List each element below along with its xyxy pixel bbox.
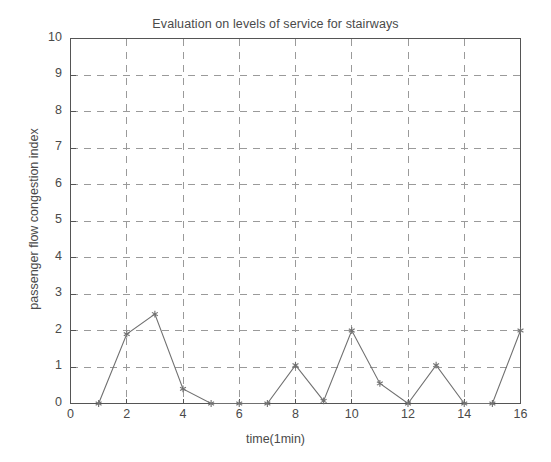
y-tick-label: 7 <box>18 139 62 153</box>
gridlines <box>71 39 521 404</box>
y-tick-label: 9 <box>18 66 62 80</box>
x-tick-label: 16 <box>501 407 541 421</box>
y-tick-label: 2 <box>18 322 62 336</box>
chart-figure: Evaluation on levels of service for stai… <box>0 0 551 462</box>
x-tick-label: 8 <box>276 407 316 421</box>
x-tick-label: 14 <box>444 407 484 421</box>
plot-area <box>0 0 551 462</box>
x-tick-label: 6 <box>219 407 259 421</box>
y-tick-label: 3 <box>18 285 62 299</box>
x-tick-label: 12 <box>388 407 428 421</box>
data-series-line <box>99 314 521 403</box>
series-line <box>99 314 521 403</box>
y-tick-label: 6 <box>18 176 62 190</box>
y-tick-label: 4 <box>18 249 62 263</box>
y-tick-label: 8 <box>18 103 62 117</box>
data-point-marker <box>377 380 383 387</box>
y-tick-label: 0 <box>18 395 62 409</box>
x-tick-label: 10 <box>332 407 372 421</box>
x-tick-label: 0 <box>51 407 91 421</box>
data-point-marker <box>180 386 186 393</box>
y-tick-label: 10 <box>18 30 62 44</box>
data-series-markers <box>96 311 524 407</box>
data-point-marker <box>124 331 130 338</box>
y-tick-label: 1 <box>18 358 62 372</box>
x-tick-label: 2 <box>107 407 147 421</box>
y-tick-label: 5 <box>18 212 62 226</box>
x-tick-label: 4 <box>163 407 203 421</box>
data-point-marker <box>152 311 158 318</box>
